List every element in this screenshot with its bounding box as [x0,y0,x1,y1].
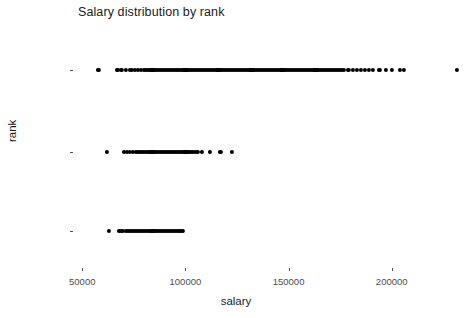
data-point [371,68,375,72]
data-point [107,229,111,233]
data-point [230,150,234,154]
x-tick-mark [392,268,393,271]
data-point [402,68,406,72]
y-tick-mark [70,152,73,153]
x-axis-title: salary [0,295,472,307]
data-point [208,150,212,154]
chart-container: Salary distribution by rank rank salary … [0,0,472,318]
x-tick-label-50000: 50000 [69,276,95,287]
data-point [96,68,100,72]
data-point [383,68,387,72]
x-tick-label-200000: 200000 [376,276,408,287]
x-tick-mark [289,268,290,271]
page-title: Salary distribution by rank [78,5,225,19]
x-tick-mark [185,268,186,271]
x-tick-label-100000: 100000 [170,276,202,287]
data-point [455,68,459,72]
x-tick-mark [82,268,83,271]
data-point [200,150,204,154]
data-point [377,68,381,72]
data-point [105,150,109,154]
plot-panel: Prof –AssocProf –AsstProf – 500001000001… [74,22,466,268]
y-axis-title: rank [6,120,18,142]
data-point [218,150,222,154]
y-tick-mark [70,70,73,71]
x-tick-label-150000: 150000 [273,276,305,287]
data-point [180,229,184,233]
data-point [390,68,394,72]
y-tick-mark [70,231,73,232]
